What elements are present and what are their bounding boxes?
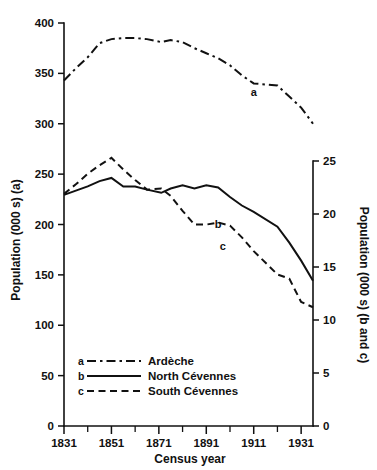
y-axis-left-tick-labels: 050100150200250300350400: [35, 17, 54, 432]
x-tick-label-1871: 1871: [146, 437, 172, 449]
x-tick-label-1931: 1931: [288, 437, 314, 449]
y2-tick-label-25: 25: [323, 155, 336, 167]
x-tick-label-1851: 1851: [99, 437, 125, 449]
y-tick-label-50: 50: [41, 370, 54, 382]
y2-tick-label-15: 15: [323, 261, 336, 273]
y2-tick-label-0: 0: [323, 420, 329, 432]
legend-key-a: a: [78, 355, 84, 367]
chart-figure: 050100150200250300350400 0510152025 1831…: [0, 0, 377, 470]
series-letter-labels: abc: [215, 86, 258, 252]
legend: aArdèchebNorth CévennescSouth Cévennes: [78, 355, 238, 397]
y2-tick-label-5: 5: [323, 367, 330, 379]
legend-key-c: c: [78, 385, 84, 397]
series-marker-b: b: [215, 218, 222, 230]
series-marker-c: c: [220, 240, 226, 252]
y-tick-label-350: 350: [35, 67, 54, 79]
x-axis-title: Census year: [154, 452, 226, 466]
series-marker-a: a: [251, 86, 258, 98]
legend-label-a: Ardèche: [148, 355, 194, 367]
legend-label-b: North Cévennes: [148, 370, 236, 382]
y-axis-left-title: Population (000 s) (a): [9, 179, 23, 300]
x-axis-ticks: [64, 426, 301, 434]
y-tick-label-0: 0: [48, 420, 54, 432]
y-axis-right-tick-labels: 0510152025: [323, 155, 336, 432]
y-tick-label-200: 200: [35, 219, 54, 231]
x-axis-tick-labels: 183118511871189119111931: [51, 437, 314, 449]
y2-tick-label-10: 10: [323, 314, 336, 326]
population-line-chart: 050100150200250300350400 0510152025 1831…: [0, 0, 377, 470]
y-axis-right-ticks: [313, 161, 319, 426]
y-tick-label-100: 100: [35, 319, 54, 331]
y2-tick-label-20: 20: [323, 208, 336, 220]
legend-label-c: South Cévennes: [148, 385, 238, 397]
y-tick-label-150: 150: [35, 269, 54, 281]
y-tick-label-400: 400: [35, 17, 54, 29]
y-tick-label-300: 300: [35, 118, 54, 130]
x-tick-label-1911: 1911: [241, 437, 267, 449]
x-tick-label-1891: 1891: [193, 437, 219, 449]
x-tick-label-1831: 1831: [51, 437, 77, 449]
y-tick-label-250: 250: [35, 168, 54, 180]
legend-key-b: b: [78, 370, 84, 382]
data-series-group: [64, 38, 313, 307]
y-axis-right-title: Population (000 s) (b and c): [357, 207, 371, 364]
series-line-a: [64, 38, 313, 124]
series-line-b: [64, 178, 313, 281]
y-axis-left-ticks: [58, 23, 64, 426]
